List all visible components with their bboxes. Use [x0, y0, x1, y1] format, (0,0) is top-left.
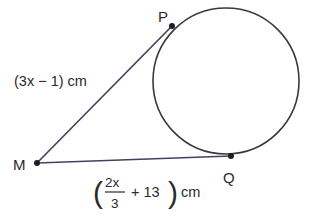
circle	[153, 8, 299, 154]
paren-close: )	[168, 176, 178, 209]
segment-mp	[37, 26, 172, 163]
plus-13: + 13	[131, 184, 160, 200]
unit-cm: cm	[181, 184, 200, 200]
label-m: M	[13, 156, 26, 173]
point-m	[34, 160, 40, 166]
point-p	[169, 23, 175, 29]
paren-open: (	[93, 176, 103, 209]
segment-mq	[37, 156, 231, 163]
fraction-numerator: 2x	[105, 175, 120, 190]
label-p: P	[158, 8, 168, 25]
label-mp-length: (3x − 1) cm	[14, 73, 87, 89]
point-q	[228, 153, 234, 159]
tangent-diagram: P M Q (3x − 1) cm ( 2x 3 + 13 ) cm	[0, 0, 312, 215]
label-mq-length: ( 2x 3 + 13 ) cm	[93, 175, 200, 211]
label-q: Q	[223, 169, 235, 186]
fraction-denominator: 3	[111, 196, 119, 211]
